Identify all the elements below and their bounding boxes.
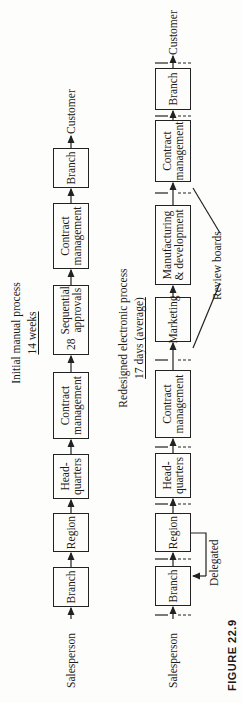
step-label: Region <box>167 516 179 549</box>
manual-step-headquarters: Head- quarters <box>53 454 89 499</box>
electronic-step-branch: Branch <box>155 566 191 606</box>
electronic-step-headquarters: Head- quarters <box>155 453 191 498</box>
electronic-process-title-text: Redesigned electronic process <box>115 263 131 413</box>
electronic-start-salesperson: Salesperson <box>167 633 179 688</box>
step-label: Marketing <box>167 296 179 344</box>
approvals-count: 28 <box>65 339 77 351</box>
step-label: Contract management <box>161 375 185 434</box>
step-label: Branch <box>167 569 179 602</box>
electronic-step-branch-final: Branch <box>155 68 191 110</box>
manual-step-branch: Branch <box>53 567 89 607</box>
electronic-step-contract-management-2: Contract management <box>155 120 191 182</box>
electronic-end-customer: Customer <box>167 10 179 55</box>
electronic-step-region: Region <box>155 513 191 552</box>
electronic-step-contract-management-1: Contract management <box>155 370 191 438</box>
step-label: Contract management <box>161 122 185 181</box>
manual-step-sequential-approvals: 28 Sequential approvals <box>53 285 89 355</box>
manual-start-salesperson: Salesperson <box>65 633 77 688</box>
electronic-process-title: Redesigned electronic process 17 days (a… <box>115 263 147 413</box>
manual-process-duration: 14 weeks <box>24 263 40 403</box>
electronic-step-marketing: Marketing <box>155 297 191 342</box>
step-label: Head- quarters <box>59 458 83 495</box>
step-label: Sequential approvals <box>59 286 83 335</box>
manual-step-branch-final: Branch <box>53 148 89 188</box>
electronic-step-manufacturing-development: Manufacturing & development <box>155 205 191 285</box>
step-label: Contract management <box>59 207 83 266</box>
manual-process-title: Initial manual process 14 weeks <box>8 263 40 403</box>
step-label: Branch <box>65 570 77 603</box>
manual-step-contract-management-1: Contract management <box>53 372 89 439</box>
step-label: Region <box>65 516 77 549</box>
manual-end-customer: Customer <box>65 89 77 134</box>
step-label: Contract management <box>59 376 83 435</box>
delegated-label: Delegated <box>208 539 220 586</box>
manual-step-region: Region <box>53 513 89 552</box>
electronic-process-duration: 17 days (average) <box>131 263 147 413</box>
step-label: Branch <box>65 151 77 184</box>
review-boards-label: Review boards <box>211 231 223 300</box>
manual-process-title-text: Initial manual process <box>8 263 24 403</box>
figure-22-9: Initial manual process 14 weeks Salesper… <box>0 0 242 703</box>
step-label: Manufacturing & development <box>161 209 185 280</box>
step-label: Branch <box>167 72 179 105</box>
manual-step-contract-management-2: Contract management <box>53 203 89 269</box>
step-label: Head- quarters <box>161 457 185 494</box>
figure-caption: FIGURE 22.9 <box>226 619 238 691</box>
